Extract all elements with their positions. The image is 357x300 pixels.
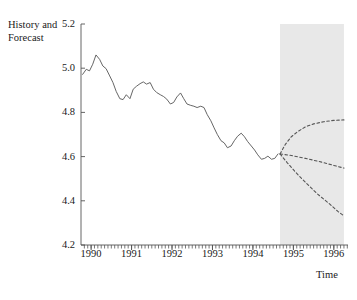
forecast-shaded-region	[280, 24, 344, 245]
series-path	[83, 55, 278, 159]
chart-canvas: History and Forecast Time 5.2 5.0 4.8 4.…	[0, 0, 357, 300]
x-axis-minor-ticks	[84, 245, 347, 249]
plot-area	[0, 0, 357, 300]
